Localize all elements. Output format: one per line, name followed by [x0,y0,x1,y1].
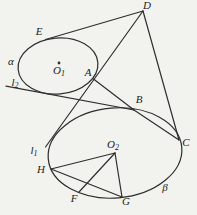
label-E: E [36,26,43,39]
label-O2: O2 [107,139,119,152]
segment-DC [143,11,179,140]
radius-O2H [51,153,115,169]
label-O1: O1 [53,65,65,78]
label-l1: l1 [30,145,37,158]
label-alpha: α [8,56,14,69]
label-H: H [37,164,45,177]
radius-O2G [115,153,122,197]
label-l2: l2 [11,77,18,90]
label-C: C [182,137,189,150]
line-l2-B [6,86,134,110]
geometry-figure: D E α O1 l2 A B C l1 O2 H F G β [0,0,197,215]
tangent-line-DE [46,11,144,40]
segment-AB [94,79,135,110]
label-D: D [143,0,151,13]
label-F: F [71,193,78,206]
label-B: B [136,94,143,107]
label-beta: β [162,182,167,195]
label-A: A [85,67,92,80]
label-G: G [122,196,130,209]
radius-O2F [79,153,115,192]
